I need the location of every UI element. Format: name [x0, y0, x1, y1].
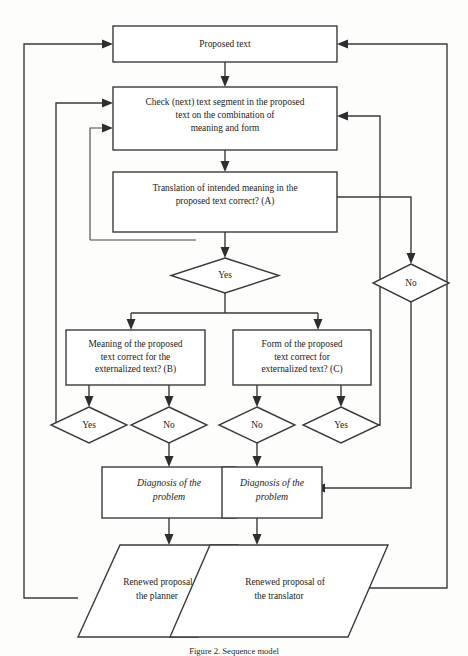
node-diagnosis-left-line-2: problem — [152, 491, 185, 502]
edge-translation-to-no — [337, 197, 411, 255]
node-check-segment-line-2: text on the combination of — [176, 110, 276, 120]
arrow-b-to-yes — [85, 396, 94, 407]
node-c-yes[interactable]: Yes — [303, 407, 379, 443]
arrow-diagnosis-left-to-planner — [165, 534, 174, 545]
arrow-b-to-no — [165, 396, 174, 407]
arrow-byes-to-check — [102, 99, 113, 108]
arrow-translator-to-proposed — [337, 40, 348, 49]
arrow-translation-to-no — [407, 253, 416, 264]
arrow-cyes-to-check — [337, 112, 348, 121]
node-check-segment-line-1: Check (next) text segment in the propose… — [146, 97, 305, 108]
node-b-no-label: No — [163, 420, 175, 430]
node-c-yes-label: Yes — [334, 420, 348, 430]
edge-yes-split-bar — [131, 293, 318, 322]
node-decision-a-no[interactable]: No — [373, 264, 449, 302]
node-b-no[interactable]: No — [131, 407, 207, 443]
arrow-c-to-yes — [337, 396, 346, 407]
node-meaning-b[interactable]: Meaning of the proposed text correct for… — [66, 330, 205, 385]
arrow-proposed-to-check — [221, 76, 230, 87]
node-check-segment[interactable]: Check (next) text segment in the propose… — [113, 87, 337, 150]
arrow-cno-to-diagnosis-right — [253, 456, 262, 467]
node-b-yes-label: Yes — [82, 420, 96, 430]
node-b-yes[interactable]: Yes — [51, 407, 127, 443]
node-decision-a-yes[interactable]: Yes — [171, 258, 279, 293]
arrow-c-to-no — [253, 396, 262, 407]
node-c-no[interactable]: No — [219, 407, 295, 443]
node-meaning-b-line-1: Meaning of the proposed — [89, 339, 183, 349]
node-form-c-line-2: text correct for — [274, 352, 331, 362]
node-meaning-b-line-2: text correct for the — [101, 352, 171, 362]
arrow-check-to-translation — [221, 161, 230, 172]
node-translation-a-line-1: Translation of intended meaning in the — [152, 183, 297, 193]
edge-translator-to-proposed-loop — [345, 44, 447, 588]
node-form-c-line-1: Form of the proposed — [262, 339, 343, 349]
node-translation-a-line-2: proposed text correct? (A) — [176, 196, 275, 207]
node-diagnosis-right[interactable]: Diagnosis of the problem — [222, 467, 322, 518]
edge-inner-left-loop — [90, 128, 105, 240]
node-diagnosis-left-line-1: Diagnosis of the — [136, 477, 202, 488]
arrow-translation-to-yes — [221, 247, 230, 258]
node-meaning-b-line-3: externalized text? (B) — [95, 364, 176, 375]
node-translation-a[interactable]: Translation of intended meaning in the p… — [113, 172, 337, 232]
figure-canvas: Proposed text Check (next) text segment … — [0, 0, 468, 656]
node-form-c[interactable]: Form of the proposed text correct for ex… — [233, 330, 371, 385]
node-proposed-text-line-1: Proposed text — [199, 39, 251, 49]
node-diagnosis-right-line-1: Diagnosis of the — [239, 477, 305, 488]
arrow-diagnosis-right-to-translator — [253, 534, 262, 545]
node-renewal-planner-line-2: the planner — [136, 591, 179, 601]
arrow-yes-to-meaning-b — [127, 319, 136, 330]
arrow-yes-to-form-c — [314, 319, 323, 330]
node-c-no-label: No — [251, 420, 263, 430]
node-diagnosis-left[interactable]: Diagnosis of the problem — [102, 467, 236, 518]
node-renewal-translator-line-2: the translator — [254, 591, 304, 601]
node-renewal-translator-line-1: Renewed proposal of — [245, 577, 326, 587]
figure-caption-text: Figure 2. Sequence model — [189, 646, 279, 656]
node-check-segment-line-3: meaning and form — [191, 123, 260, 133]
edge-planner-to-proposed-loop — [24, 44, 105, 598]
node-decision-a-no-label: No — [405, 278, 417, 288]
node-form-c-line-3: externalized text? (C) — [261, 364, 342, 375]
arrow-planner-to-proposed — [102, 40, 113, 49]
flowchart-svg: Proposed text Check (next) text segment … — [0, 0, 468, 656]
arrow-inner-left-loop — [102, 124, 113, 133]
node-proposed-text[interactable]: Proposed text — [113, 26, 337, 62]
node-decision-a-yes-label: Yes — [218, 270, 232, 280]
figure-caption: Figure 2. Sequence model — [189, 646, 279, 656]
node-diagnosis-right-line-2: problem — [255, 491, 288, 502]
arrow-bno-to-diagnosis-left — [165, 456, 174, 467]
